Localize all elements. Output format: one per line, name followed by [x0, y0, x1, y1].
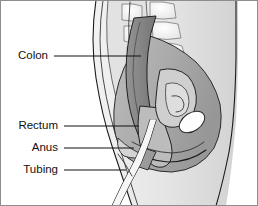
label-colon: Colon [18, 49, 48, 61]
label-tubing: Tubing [23, 163, 58, 175]
figure-labels: Colon Rectum Anus Tubing [18, 49, 58, 175]
label-rectum: Rectum [18, 119, 58, 131]
label-anus: Anus [32, 141, 58, 153]
anatomy-figure: Colon Rectum Anus Tubing [0, 0, 258, 206]
anatomy-illustration: Colon Rectum Anus Tubing [0, 0, 258, 206]
